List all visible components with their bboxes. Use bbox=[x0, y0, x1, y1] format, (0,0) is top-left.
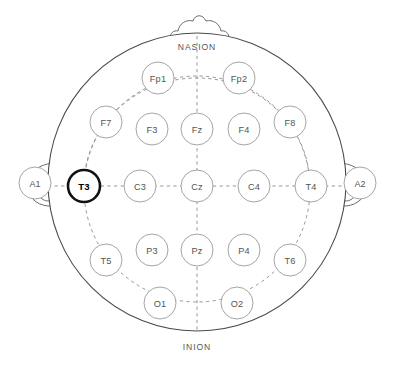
electrode-p3[interactable]: P3 bbox=[136, 234, 168, 266]
electrode-f4[interactable]: F4 bbox=[228, 113, 260, 145]
electrode-t6[interactable]: T6 bbox=[274, 244, 306, 276]
electrode-label-p4: P4 bbox=[238, 246, 250, 256]
electrode-c4[interactable]: C4 bbox=[238, 170, 270, 202]
electrode-label-t3: T3 bbox=[78, 181, 90, 192]
electrode-label-fp2: Fp2 bbox=[231, 74, 247, 84]
electrode-label-f7: F7 bbox=[100, 118, 111, 128]
electrode-c3[interactable]: C3 bbox=[124, 170, 156, 202]
electrode-label-f3: F3 bbox=[146, 125, 157, 135]
electrode-cz[interactable]: Cz bbox=[181, 170, 213, 202]
electrode-label-fz: Fz bbox=[192, 125, 203, 135]
electrode-label-t4: T4 bbox=[305, 182, 316, 192]
electrode-label-cz: Cz bbox=[191, 182, 203, 192]
reference-electrode-a2[interactable]: A2 bbox=[344, 167, 376, 199]
electrode-pz[interactable]: Pz bbox=[181, 234, 213, 266]
electrode-fp1[interactable]: Fp1 bbox=[142, 62, 174, 94]
electrode-fz[interactable]: Fz bbox=[181, 113, 213, 145]
electrode-t4[interactable]: T4 bbox=[295, 170, 327, 202]
nasion-label: NASION bbox=[178, 42, 216, 52]
electrode-label-pz: Pz bbox=[191, 246, 202, 256]
eeg-head-map-svg: Fp1Fp2F7F3FzF4F8T3C3CzC4T4T5P3PzP4T6O1O2… bbox=[0, 0, 393, 368]
reference-label-a2: A2 bbox=[354, 179, 365, 189]
eeg-10-20-diagram: Fp1Fp2F7F3FzF4F8T3C3CzC4T4T5P3PzP4T6O1O2… bbox=[0, 0, 393, 368]
electrode-label-t6: T6 bbox=[284, 256, 295, 266]
electrode-label-o1: O1 bbox=[154, 299, 167, 309]
inion-label: INION bbox=[183, 342, 211, 352]
electrode-label-c3: C3 bbox=[134, 182, 146, 192]
electrode-f8[interactable]: F8 bbox=[274, 106, 306, 138]
electrode-label-f4: F4 bbox=[238, 125, 249, 135]
electrode-t5[interactable]: T5 bbox=[90, 244, 122, 276]
reference-electrode-a1[interactable]: A1 bbox=[19, 167, 51, 199]
electrode-label-o2: O2 bbox=[231, 299, 244, 309]
electrode-o1[interactable]: O1 bbox=[144, 287, 176, 319]
electrode-f3[interactable]: F3 bbox=[136, 113, 168, 145]
electrode-label-p3: P3 bbox=[146, 246, 158, 256]
electrode-label-t5: T5 bbox=[100, 256, 111, 266]
electrode-f7[interactable]: F7 bbox=[90, 106, 122, 138]
reference-label-a1: A1 bbox=[29, 179, 40, 189]
electrode-label-f8: F8 bbox=[284, 118, 295, 128]
electrode-p4[interactable]: P4 bbox=[228, 234, 260, 266]
electrode-t3[interactable]: T3 bbox=[68, 170, 100, 202]
electrode-fp2[interactable]: Fp2 bbox=[223, 62, 255, 94]
electrode-label-c4: C4 bbox=[248, 182, 260, 192]
electrode-label-fp1: Fp1 bbox=[150, 74, 166, 84]
electrode-o2[interactable]: O2 bbox=[221, 287, 253, 319]
